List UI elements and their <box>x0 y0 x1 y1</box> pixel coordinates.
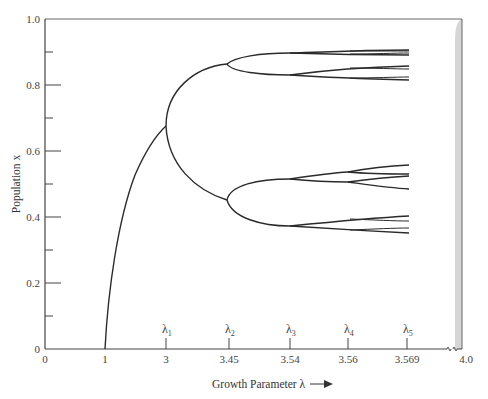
period2-upper <box>166 64 227 126</box>
y-tick-label: 0.4 <box>26 211 40 223</box>
bifurcation-curves <box>105 50 409 349</box>
x-tick-label: 3.45 <box>219 353 239 365</box>
lambda-marker-4: λ4 <box>344 322 354 338</box>
x-axis-title: Growth Parameter λ <box>212 378 305 390</box>
chaos-band <box>455 19 462 349</box>
y-tick-label: 1.0 <box>26 13 40 25</box>
x-tick-label: 4.0 <box>459 353 473 365</box>
y-tick-label: 0.6 <box>26 145 40 157</box>
axis-break-icon <box>447 347 451 351</box>
arrow-right-icon <box>310 380 333 388</box>
y-ticks <box>45 52 61 316</box>
x-tick-label: 3 <box>163 353 169 365</box>
lambda-marker-3: λ3 <box>286 322 296 338</box>
y-tick-label: 0 <box>35 343 41 355</box>
x-tick-label: 3.54 <box>280 353 300 365</box>
x-tick-label: 3.56 <box>338 353 358 365</box>
lambda-marker-2: λ2 <box>225 322 235 338</box>
y-tick-label: 0.2 <box>26 277 40 289</box>
lambda-marker-5: λ5 <box>403 322 413 338</box>
period1-branch <box>105 126 166 349</box>
bifurcation-chart: 1.0 0.8 0.6 0.4 0.2 0 Population x 0 1 3… <box>0 0 488 399</box>
x-tick-label: 1 <box>102 353 108 365</box>
x-tick-label: 0 <box>42 353 48 365</box>
period2-lower <box>166 126 227 200</box>
x-ticks <box>166 338 407 349</box>
y-tick-label: 0.8 <box>26 79 40 91</box>
y-axis-title: Population x <box>10 155 23 214</box>
x-tick-label: 3.569 <box>395 353 420 365</box>
lambda-marker-1: λ1 <box>162 322 172 338</box>
